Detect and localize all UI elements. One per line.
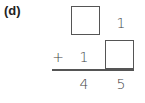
digit-row1-ones: 1 <box>115 16 127 30</box>
sum-line <box>52 69 134 71</box>
answer-box-row2-ones[interactable] <box>105 40 134 69</box>
problem-label: (d) <box>4 3 21 18</box>
digit-result-ones: 5 <box>115 77 127 91</box>
plus-operator: + <box>52 50 64 64</box>
digit-row2-tens: 1 <box>78 50 90 64</box>
answer-box-row1-tens[interactable] <box>71 6 100 35</box>
digit-result-tens: 4 <box>78 77 90 91</box>
